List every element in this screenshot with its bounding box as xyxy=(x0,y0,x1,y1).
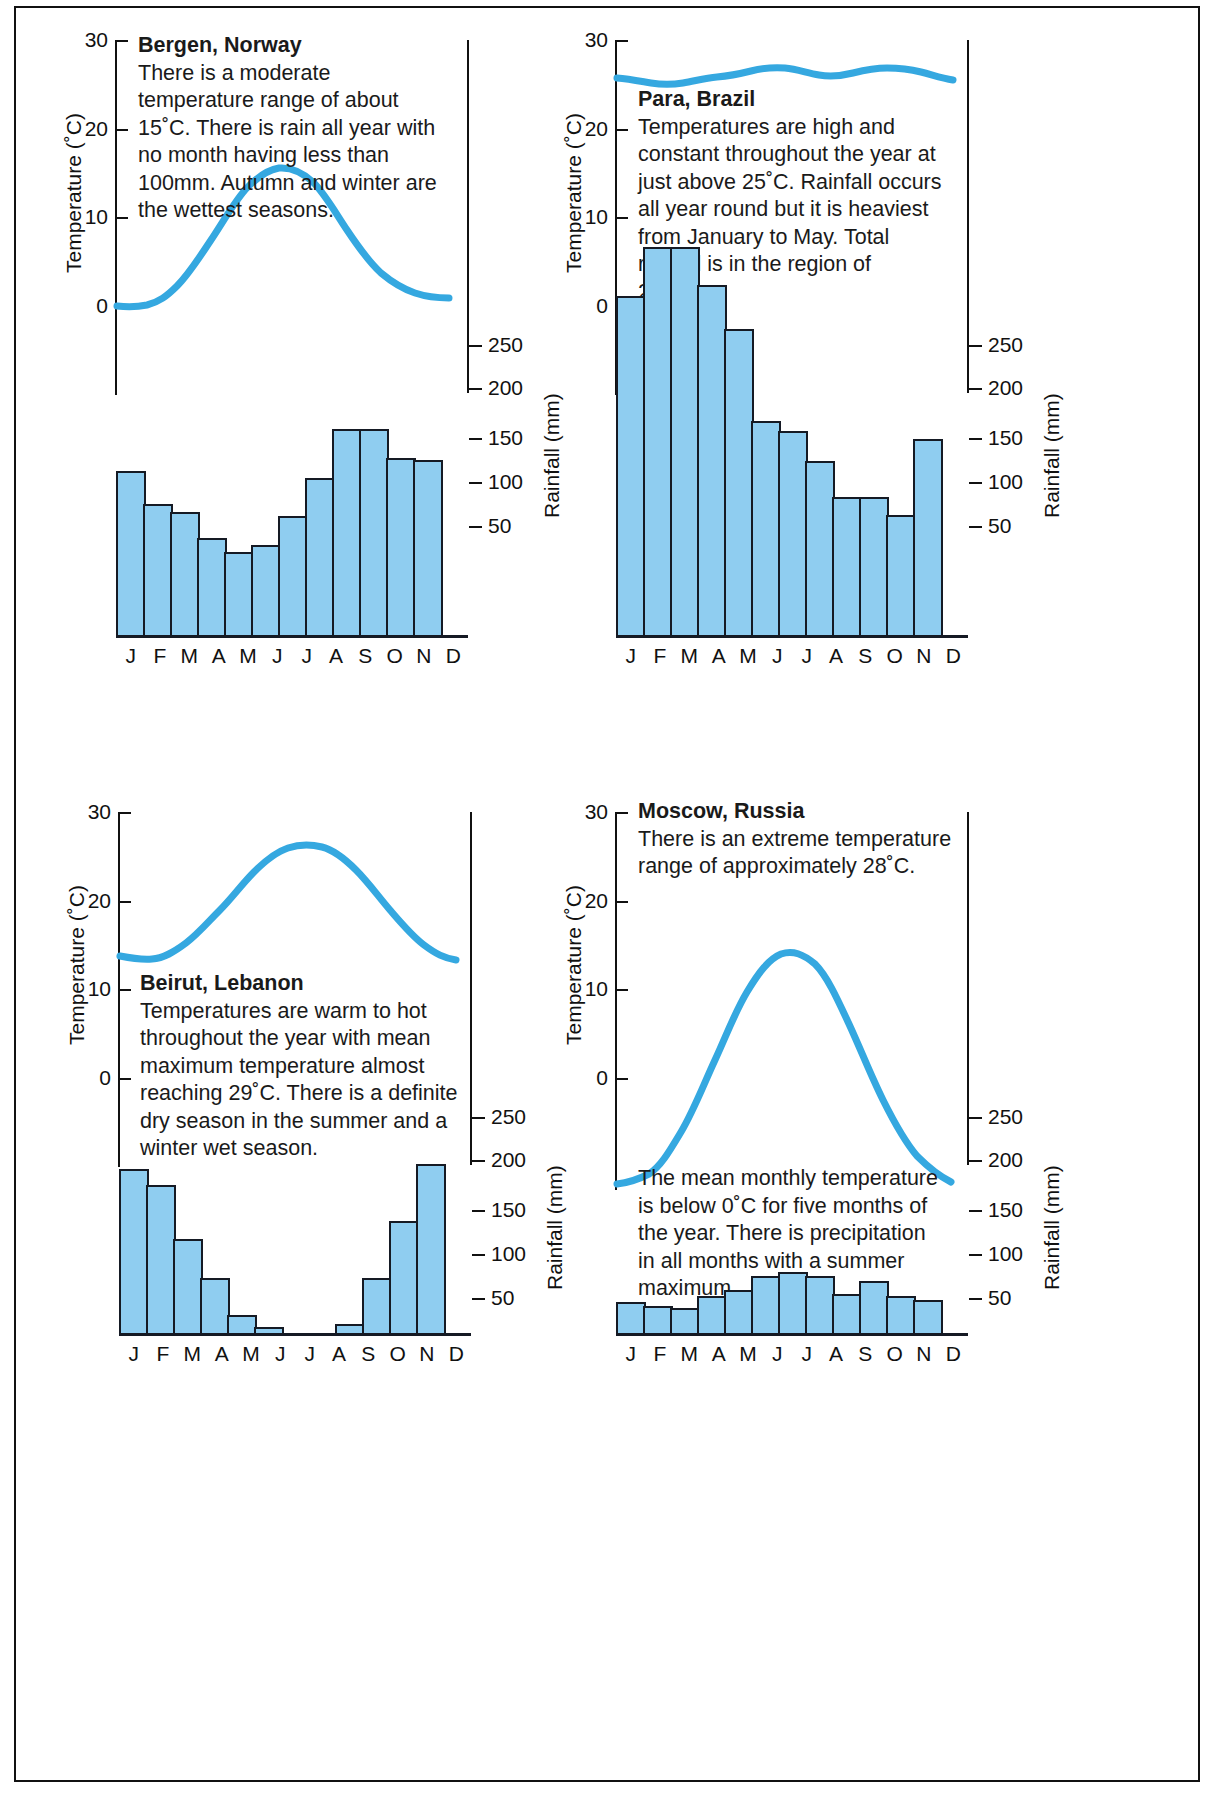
moscow-rain-tick-200 xyxy=(969,1160,982,1162)
para-rain-ticklabel-150: 150 xyxy=(988,427,1023,448)
bar-moscow-nov xyxy=(886,1296,916,1335)
bar-bergen-oct xyxy=(359,429,389,637)
bar-beirut-mar xyxy=(173,1239,203,1335)
para-temp-tick-20 xyxy=(615,129,628,131)
beirut-rain-ticklabel-50: 50 xyxy=(491,1287,514,1308)
moscow-temp-ticklabel-0: 0 xyxy=(578,1067,608,1088)
moscow-rain-tick-100 xyxy=(969,1254,982,1256)
bergen-temp-ticklabel-0: 0 xyxy=(78,295,108,316)
para-rain-tick-50 xyxy=(969,526,982,528)
para-rain-ticklabel-50: 50 xyxy=(988,515,1011,536)
bar-bergen-jul xyxy=(278,516,308,637)
month-label: F xyxy=(645,644,674,668)
bergen-rain-ticklabel-200: 200 xyxy=(488,377,523,398)
beirut-rain-tick-200 xyxy=(472,1160,485,1162)
bar-para-aug xyxy=(805,461,835,637)
bergen-month-labels: J F M A M J J A S O N D xyxy=(116,644,468,668)
panel-moscow: Temperature (˚C) 30 20 10 0 Rainfall (mm… xyxy=(530,790,1070,1390)
para-temp-ticklabel-10: 10 xyxy=(578,206,608,227)
month-label: M xyxy=(236,1342,265,1366)
month-label: D xyxy=(442,1342,471,1366)
bar-beirut-feb xyxy=(146,1185,176,1335)
bergen-temp-tick-10 xyxy=(115,217,128,219)
beirut-temp-ticklabel-20: 20 xyxy=(81,890,111,911)
month-label: O xyxy=(383,1342,412,1366)
bar-para-dec xyxy=(913,439,943,637)
beirut-rainfall-bars xyxy=(119,1036,471,1335)
bar-bergen-jan xyxy=(116,471,146,637)
bar-moscow-feb xyxy=(643,1306,673,1335)
bar-beirut-jan xyxy=(119,1169,149,1335)
moscow-rain-ticklabel-200: 200 xyxy=(988,1149,1023,1170)
bar-bergen-dec xyxy=(413,460,443,637)
beirut-temp-ticklabel-10: 10 xyxy=(81,978,111,999)
bar-para-oct xyxy=(859,497,889,637)
bar-moscow-mar xyxy=(670,1308,700,1335)
para-rain-tick-150 xyxy=(969,438,982,440)
bergen-caption-text: There is a moderate temperature range of… xyxy=(138,60,438,225)
bergen-caption: Bergen, Norway There is a moderate tempe… xyxy=(138,32,438,225)
bergen-title: Bergen, Norway xyxy=(138,32,438,60)
month-label: F xyxy=(645,1342,674,1366)
month-label: N xyxy=(409,644,438,668)
bar-bergen-mar xyxy=(170,512,200,637)
bergen-temp-tick-20 xyxy=(115,129,128,131)
para-rain-ticklabel-250: 250 xyxy=(988,334,1023,355)
panel-bergen: Temperature (˚C) 30 20 10 0 Rainfall (mm… xyxy=(40,18,560,628)
beirut-temp-ticklabel-30: 30 xyxy=(81,801,111,822)
month-label: M xyxy=(175,644,204,668)
month-label: A xyxy=(321,644,350,668)
bar-moscow-apr xyxy=(697,1296,727,1335)
para-temp-ticklabel-0: 0 xyxy=(578,295,608,316)
moscow-temp-tick-0 xyxy=(615,1078,628,1080)
bar-para-jun xyxy=(751,421,781,637)
month-label: J xyxy=(263,644,292,668)
bar-bergen-nov xyxy=(386,458,416,637)
bar-para-may xyxy=(724,329,754,637)
month-label: M xyxy=(733,1342,762,1366)
beirut-month-labels: J F M A M J J A S O N D xyxy=(119,1342,471,1366)
month-label: J xyxy=(295,1342,324,1366)
month-label: M xyxy=(733,644,762,668)
beirut-temp-tick-20 xyxy=(118,901,131,903)
para-bars-baseline xyxy=(616,635,968,638)
bar-para-feb xyxy=(643,247,673,637)
moscow-rain-ticklabel-100: 100 xyxy=(988,1243,1023,1264)
bar-beirut-oct xyxy=(362,1278,392,1335)
month-label: F xyxy=(145,644,174,668)
bar-moscow-aug xyxy=(805,1276,835,1335)
para-temp-ticklabel-30: 30 xyxy=(578,29,608,50)
bar-para-nov xyxy=(886,515,916,637)
month-label: M xyxy=(675,1342,704,1366)
month-label: O xyxy=(880,644,909,668)
month-label: F xyxy=(148,1342,177,1366)
bar-bergen-may xyxy=(224,552,254,637)
moscow-caption: Moscow, Russia There is an extreme tempe… xyxy=(638,798,958,881)
moscow-temp-axis xyxy=(615,812,617,1190)
month-label: J xyxy=(763,644,792,668)
month-label: M xyxy=(675,644,704,668)
month-label: A xyxy=(207,1342,236,1366)
bar-para-mar xyxy=(670,247,700,637)
month-label: J xyxy=(266,1342,295,1366)
beirut-temp-tick-10 xyxy=(118,989,131,991)
moscow-rain-axis xyxy=(967,812,969,1165)
bar-moscow-dec xyxy=(913,1300,943,1335)
moscow-bars-baseline xyxy=(616,1333,968,1336)
bar-bergen-sep xyxy=(332,429,362,637)
month-label: S xyxy=(351,644,380,668)
para-rain-ticklabel-200: 200 xyxy=(988,377,1023,398)
bar-beirut-apr xyxy=(200,1278,230,1335)
month-label: A xyxy=(704,1342,733,1366)
month-label: J xyxy=(616,1342,645,1366)
beirut-title: Beirut, Lebanon xyxy=(140,970,460,998)
beirut-rain-tick-250 xyxy=(472,1117,485,1119)
bergen-rain-tick-100 xyxy=(469,482,482,484)
moscow-rain-ticklabel-250: 250 xyxy=(988,1106,1023,1127)
bergen-temp-ticklabel-10: 10 xyxy=(78,206,108,227)
bar-para-jan xyxy=(616,296,646,637)
month-label: M xyxy=(178,1342,207,1366)
para-temp-ticklabel-20: 20 xyxy=(578,118,608,139)
month-label: N xyxy=(909,1342,938,1366)
bar-moscow-jun xyxy=(751,1276,781,1335)
